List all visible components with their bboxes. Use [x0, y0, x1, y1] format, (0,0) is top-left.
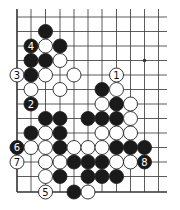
black-stone-icon: [53, 141, 67, 155]
black-stone: [67, 185, 81, 199]
black-stone: [95, 112, 109, 126]
white-stone: [124, 112, 138, 126]
white-stone-icon: [124, 112, 138, 126]
black-stone: [39, 54, 53, 68]
white-stone: [53, 54, 67, 68]
move-number-label: 1: [113, 70, 119, 81]
black-stone: [124, 141, 138, 155]
white-stone: [67, 141, 81, 155]
move-number-label: 5: [42, 187, 48, 198]
white-stone: [39, 39, 53, 53]
black-stone: [39, 25, 53, 39]
white-stone-icon: [53, 83, 67, 97]
black-stone-icon: [110, 141, 124, 155]
white-stone-icon: [110, 155, 124, 169]
black-stone: [24, 126, 38, 140]
star-point-icon: [143, 59, 147, 63]
white-stone-icon: [39, 141, 53, 155]
white-stone-icon: [39, 126, 53, 140]
black-stone-icon: [110, 170, 124, 184]
go-board-diagram: 43126785: [0, 0, 180, 210]
black-stone: [53, 126, 67, 140]
white-stone: [81, 185, 95, 199]
black-stone: [53, 141, 67, 155]
black-stone-icon: [110, 97, 124, 111]
black-stone-icon: [95, 112, 109, 126]
black-stone-move-4: 4: [24, 39, 38, 53]
move-number-label: 8: [141, 157, 147, 168]
black-stone-move-8: 8: [138, 155, 152, 169]
black-stone-icon: [53, 170, 67, 184]
black-stone-icon: [39, 54, 53, 68]
star-points: [143, 59, 147, 63]
white-stone: [39, 126, 53, 140]
white-stone-move-7: 7: [10, 155, 24, 169]
black-stone-icon: [67, 185, 81, 199]
black-stone: [24, 68, 38, 82]
white-stone: [95, 141, 109, 155]
white-stone-icon: [124, 97, 138, 111]
white-stone: [39, 170, 53, 184]
white-stone-move-1: 1: [110, 68, 124, 82]
black-stone-icon: [95, 170, 109, 184]
black-stone-icon: [39, 112, 53, 126]
white-stone-icon: [110, 126, 124, 140]
white-stone-icon: [124, 155, 138, 169]
black-stone: [81, 155, 95, 169]
black-stone: [53, 170, 67, 184]
black-stone: [67, 155, 81, 169]
move-number-label: 6: [14, 142, 20, 153]
black-stone: [110, 97, 124, 111]
move-number-label: 4: [28, 41, 34, 52]
white-stone: [39, 141, 53, 155]
black-stone-icon: [39, 25, 53, 39]
white-stone: [95, 126, 109, 140]
white-stone-icon: [95, 126, 109, 140]
black-stone-icon: [24, 68, 38, 82]
black-stone-icon: [81, 170, 95, 184]
white-stone: [53, 155, 67, 169]
white-stone: [67, 68, 81, 82]
black-stone-icon: [24, 54, 38, 68]
white-stone: [24, 141, 38, 155]
black-stone: [81, 170, 95, 184]
black-stone: [95, 155, 109, 169]
black-stone-icon: [138, 141, 152, 155]
white-stone: [124, 155, 138, 169]
black-stone: [95, 83, 109, 97]
white-stone-icon: [67, 68, 81, 82]
black-stone: [81, 112, 95, 126]
white-stone-icon: [67, 141, 81, 155]
black-stone-icon: [95, 155, 109, 169]
white-stone: [110, 155, 124, 169]
white-stone-icon: [81, 141, 95, 155]
black-stone-icon: [67, 155, 81, 169]
move-number-label: 3: [14, 70, 20, 81]
black-stone-icon: [53, 126, 67, 140]
white-stone-icon: [24, 83, 38, 97]
white-stone: [110, 83, 124, 97]
white-stone: [95, 97, 109, 111]
white-stone-icon: [81, 185, 95, 199]
black-stone-icon: [81, 112, 95, 126]
black-stone-icon: [81, 155, 95, 169]
white-stone-icon: [110, 83, 124, 97]
white-stone-icon: [39, 170, 53, 184]
black-stone-icon: [110, 112, 124, 126]
black-stone-icon: [95, 83, 109, 97]
black-stone: [110, 170, 124, 184]
white-stone: [124, 97, 138, 111]
black-stone: [95, 170, 109, 184]
white-stone: [124, 126, 138, 140]
black-stone: [24, 54, 38, 68]
white-stone-icon: [39, 155, 53, 169]
black-stone: [39, 112, 53, 126]
go-board-canvas: 43126785: [0, 0, 180, 210]
black-stone-icon: [53, 112, 67, 126]
white-stone-icon: [24, 141, 38, 155]
black-stone: [138, 141, 152, 155]
white-stone-icon: [124, 126, 138, 140]
white-stone-icon: [39, 68, 53, 82]
black-stone-icon: [124, 141, 138, 155]
white-stone-icon: [95, 97, 109, 111]
